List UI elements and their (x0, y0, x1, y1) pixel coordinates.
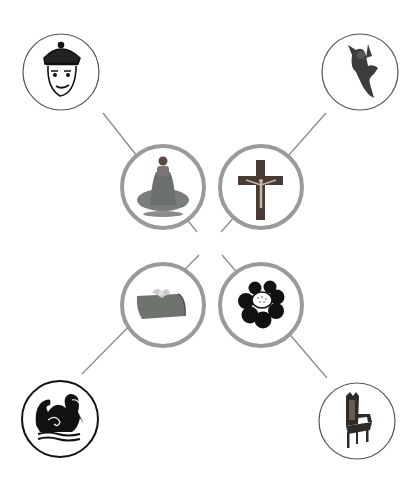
node-angel[interactable] (322, 34, 398, 110)
inner-nodes (122, 146, 302, 346)
diagram-canvas (0, 0, 419, 491)
connectors (82, 113, 327, 378)
node-woman[interactable] (122, 146, 204, 228)
outer-nodes (22, 34, 398, 459)
node-flower[interactable] (220, 264, 302, 346)
node-throne[interactable] (319, 383, 395, 459)
node-swan[interactable] (22, 381, 98, 457)
node-king[interactable] (23, 34, 99, 110)
node-gift[interactable] (122, 264, 204, 346)
node-crucifix[interactable] (220, 146, 302, 228)
